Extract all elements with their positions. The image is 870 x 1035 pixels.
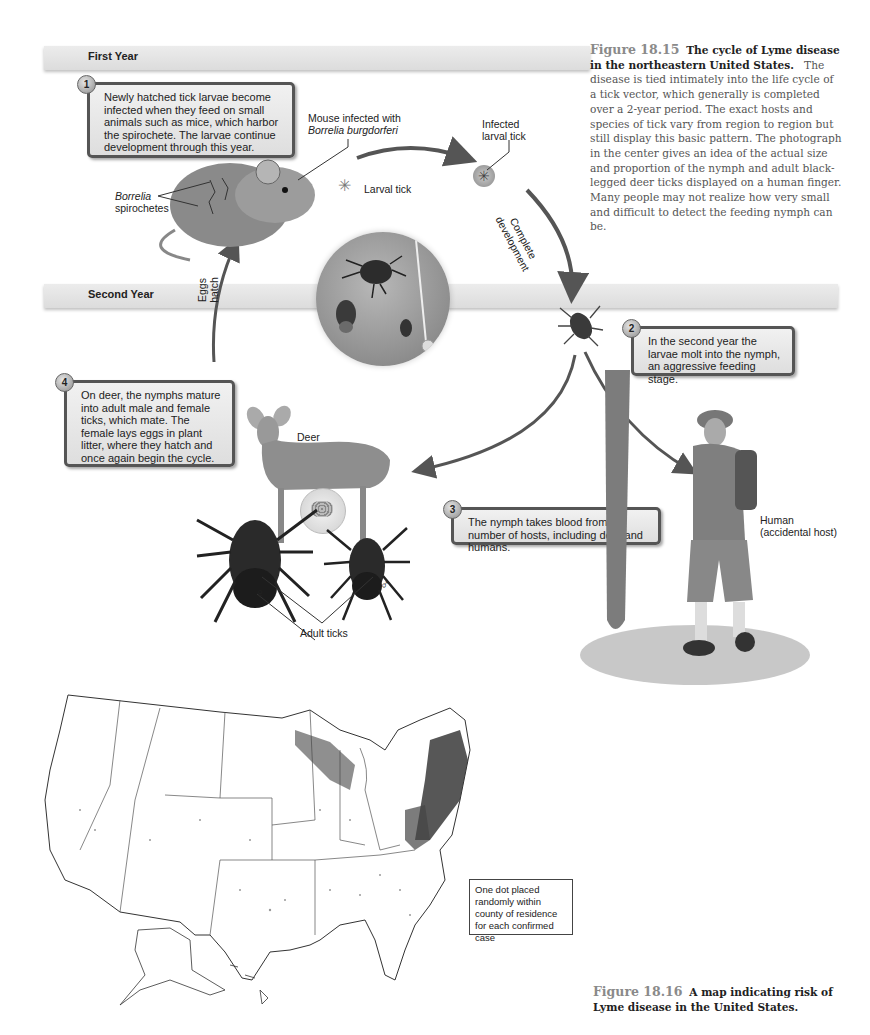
spirochete-leader-lines bbox=[158, 178, 238, 218]
step-1-text: Newly hatched tick larvae become infecte… bbox=[104, 91, 278, 153]
borrelia-label: Borrelia spirochetes bbox=[115, 190, 169, 214]
eggs-hatch-label: Eggs hatch bbox=[196, 260, 220, 320]
human-label: Human (accidental host) bbox=[760, 514, 837, 538]
larval-tick-label: Larval tick bbox=[364, 183, 411, 195]
nymph-tick-illustration bbox=[556, 300, 606, 350]
step-4-box: On deer, the nymphs mature into adult ma… bbox=[64, 380, 235, 467]
tick-photo-on-finger bbox=[316, 232, 450, 366]
step-2-box: In the second year the larvae molt into … bbox=[631, 326, 795, 376]
figure-18-15-caption: Figure 18.15 The cycle of Lyme disease i… bbox=[590, 43, 842, 234]
step-1-box: Newly hatched tick larvae become infecte… bbox=[87, 82, 295, 158]
deer-label: Deer bbox=[297, 431, 320, 443]
adult-ticks-label: Adult ticks bbox=[300, 627, 348, 639]
step-4-text: On deer, the nymphs mature into adult ma… bbox=[81, 389, 220, 464]
step-3-badge: 3 bbox=[443, 500, 462, 519]
larval-tick-icon: ✳ bbox=[338, 178, 356, 194]
step-4-badge: 4 bbox=[55, 373, 74, 392]
step-1-badge: 1 bbox=[77, 75, 96, 94]
figure-18-16-caption: Figure 18.16 A map indicating risk of Ly… bbox=[593, 985, 853, 1014]
figure-18-16-number: Figure 18.16 bbox=[593, 984, 682, 999]
infected-tick-leader-line bbox=[485, 140, 525, 180]
male-symbol: ♂ bbox=[380, 579, 390, 591]
map-legend: One dot placed randomly within county of… bbox=[469, 879, 573, 935]
step-2-badge: 2 bbox=[622, 319, 641, 338]
figure-18-15-number: Figure 18.15 bbox=[590, 42, 679, 57]
mouse-label: Mouse infected with Borrelia burgdorferi bbox=[308, 112, 401, 136]
us-lyme-disease-map bbox=[20, 690, 500, 1030]
figure-18-15-body: The disease is tied intimately into the … bbox=[590, 59, 842, 233]
infected-larval-tick-label: Infected larval tick bbox=[482, 118, 526, 142]
adult-ticks-leader-lines bbox=[260, 575, 380, 655]
